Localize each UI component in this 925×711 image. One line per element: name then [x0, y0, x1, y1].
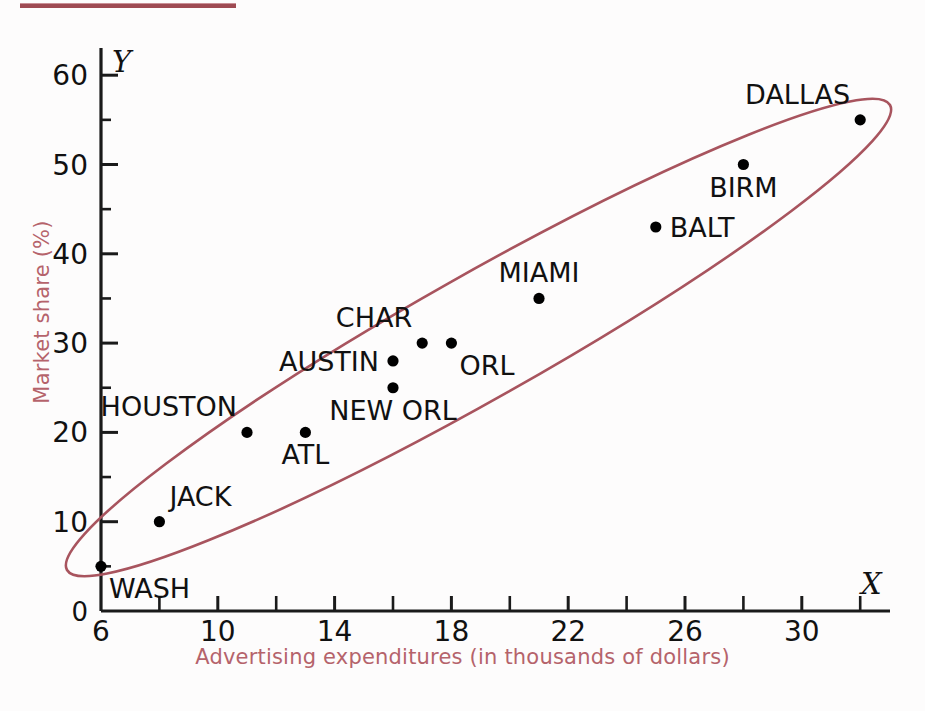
- data-point-miami[interactable]: [533, 293, 544, 304]
- point-label-new-orl: NEW ORL: [329, 395, 457, 426]
- scatter-plot-canvas: 0102030405060 6101418222630 Y X WASHJACK…: [0, 0, 925, 711]
- point-label-balt: BALT: [670, 212, 735, 243]
- x-tick-label-26: 26: [667, 615, 703, 648]
- y-tick-label-0: 0: [71, 597, 88, 627]
- point-label-houston: HOUSTON: [101, 391, 237, 422]
- y-tick-label-40: 40: [52, 238, 88, 271]
- data-point-houston[interactable]: [241, 427, 252, 438]
- x-tick-label-6: 6: [92, 615, 110, 648]
- data-point-atl[interactable]: [300, 427, 311, 438]
- axes-group: [101, 48, 890, 611]
- point-label-char: CHAR: [336, 302, 412, 333]
- x-axis-symbol: X: [859, 567, 883, 601]
- data-point-wash[interactable]: [95, 561, 106, 572]
- point-label-austin: AUSTIN: [279, 346, 379, 377]
- data-point-labels-group: WASHJACKHOUSTONATLNEW ORLAUSTINCHARORLMI…: [101, 79, 851, 605]
- y-tick-label-30: 30: [52, 327, 88, 360]
- y-axis-tick-labels: 0102030405060: [52, 59, 88, 627]
- y-tick-label-20: 20: [52, 416, 88, 449]
- y-axis-symbol: Y: [112, 45, 134, 79]
- y-tick-label-50: 50: [52, 149, 88, 182]
- data-point-jack[interactable]: [154, 516, 165, 527]
- x-axis-minor-ticks: [159, 596, 860, 611]
- chart-figure: Market share (%) Advertising expenditure…: [0, 0, 925, 711]
- x-axis-tick-labels: 6101418222630: [92, 615, 820, 648]
- x-tick-label-14: 14: [317, 615, 353, 648]
- x-tick-label-22: 22: [550, 615, 586, 648]
- y-tick-label-10: 10: [52, 506, 88, 539]
- point-label-dallas: DALLAS: [745, 79, 850, 110]
- point-label-orl: ORL: [459, 350, 514, 381]
- x-tick-label-30: 30: [784, 615, 820, 648]
- y-tick-label-60: 60: [52, 59, 88, 92]
- x-tick-label-10: 10: [200, 615, 236, 648]
- data-point-birm[interactable]: [738, 159, 749, 170]
- data-point-orl[interactable]: [446, 338, 457, 349]
- point-label-birm: BIRM: [709, 172, 778, 203]
- data-point-new-orl[interactable]: [387, 382, 398, 393]
- point-label-miami: MIAMI: [499, 257, 580, 288]
- point-label-wash: WASH: [109, 573, 190, 604]
- point-label-atl: ATL: [281, 439, 329, 470]
- envelope-ellipse: [37, 51, 921, 624]
- data-point-balt[interactable]: [650, 221, 661, 232]
- x-tick-label-18: 18: [434, 615, 470, 648]
- data-point-dallas[interactable]: [855, 114, 866, 125]
- data-envelope-ellipse: [37, 51, 921, 624]
- data-point-austin[interactable]: [387, 355, 398, 366]
- data-point-char[interactable]: [417, 338, 428, 349]
- point-label-jack: JACK: [167, 481, 232, 512]
